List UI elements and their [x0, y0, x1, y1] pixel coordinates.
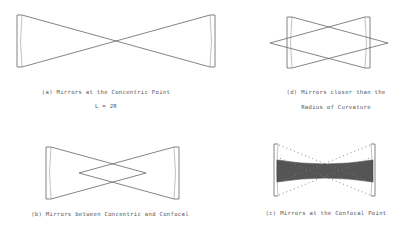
caption-a: (a) Mirrors at the Concentric Point: [36, 89, 176, 95]
panel-a-drawing: [17, 15, 215, 67]
subcaption-a: L = 2R: [36, 103, 176, 109]
caption-b: (b) Mirrors between Concentric and Confo…: [20, 211, 200, 217]
panel-b-drawing: [46, 147, 179, 199]
panel-c-drawing: [274, 144, 375, 196]
caption-d: (d) Mirrors closer than the: [266, 89, 406, 95]
diagram-canvas: (a) Mirrors at the Concentric Point L = …: [0, 0, 406, 236]
optical-cavity-diagram: [0, 0, 406, 236]
panel-d-drawing: [270, 17, 388, 68]
subcaption-d: Radius of Curvature: [266, 104, 406, 110]
caption-c: (c) Mirrors at the Confocal Point: [256, 210, 396, 216]
